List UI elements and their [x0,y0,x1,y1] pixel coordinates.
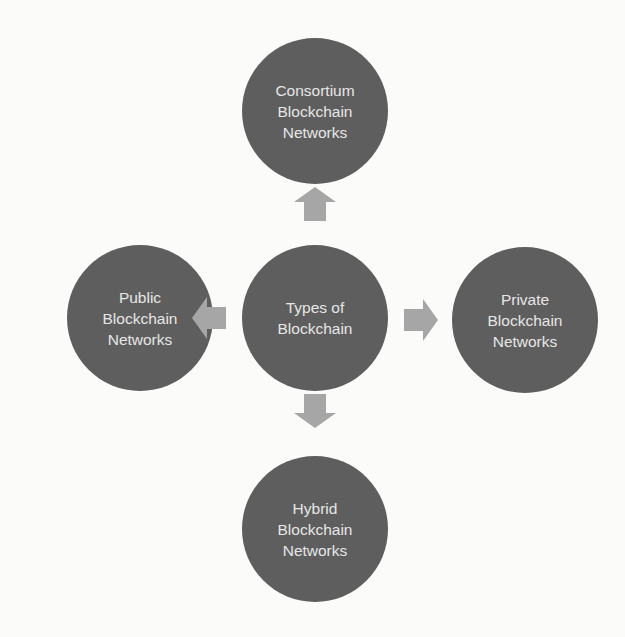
arrow-down-icon [294,394,336,428]
node-consortium-label: Consortium Blockchain Networks [275,80,354,143]
node-center-types-of-blockchain: Types of Blockchain [242,245,388,391]
node-hybrid: Hybrid Blockchain Networks [242,456,388,602]
node-private-label: Private Blockchain Networks [488,289,563,352]
node-center-label: Types of Blockchain [278,297,353,339]
node-public-label: Public Blockchain Networks [103,287,178,350]
node-consortium: Consortium Blockchain Networks [242,38,388,184]
arrow-left-icon [192,297,226,339]
arrow-right-icon [404,299,438,341]
node-private: Private Blockchain Networks [452,247,598,393]
node-hybrid-label: Hybrid Blockchain Networks [278,498,353,561]
arrow-up-icon [294,187,336,221]
